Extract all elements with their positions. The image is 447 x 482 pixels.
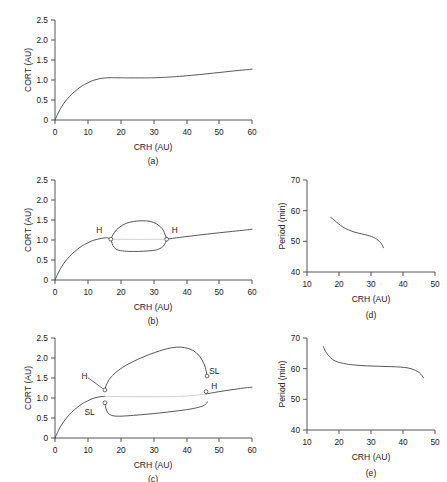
panel-d: 70 60 50 40 10 20 30 40 50 Period (min) … [265, 162, 447, 327]
x-tick-label: 0 [53, 127, 58, 137]
panel-e-axes [303, 338, 435, 434]
panel-e-y-tick-labels: 70 60 50 40 [291, 333, 301, 435]
x-tick-label: 30 [366, 437, 376, 447]
series-stable-branch [105, 402, 207, 416]
hopf-point-label: H [82, 371, 88, 381]
x-tick-label: 10 [302, 279, 312, 289]
x-axis-title: CRH (AU) [134, 142, 173, 152]
bifurcation-figure: 2.5 2.0 1.5 1.0 0.5 0 0 10 20 30 40 50 6… [0, 0, 447, 482]
panel-a-y-tick-labels: 2.5 2.0 1.5 1.0 0.5 0 [36, 15, 48, 125]
y-tick-label: 0.5 [36, 95, 48, 105]
panel-e-x-tick-labels: 10 20 30 40 50 [302, 437, 440, 447]
x-tick-label: 10 [83, 287, 93, 297]
y-tick-label: 2.0 [36, 353, 48, 363]
x-tick-label: 0 [53, 445, 58, 455]
annotation-leader-line [88, 378, 103, 389]
x-tick-label: 60 [247, 445, 257, 455]
x-tick-label: 40 [182, 287, 192, 297]
panel-a: 2.5 2.0 1.5 1.0 0.5 0 0 10 20 30 40 50 6… [0, 2, 280, 167]
x-tick-label: 30 [149, 127, 159, 137]
x-tick-label: 50 [214, 287, 224, 297]
y-tick-label: 50 [291, 394, 301, 404]
panel-e-series [323, 347, 423, 378]
y-tick-label: 0.5 [36, 413, 48, 423]
y-tick-label: 1.0 [36, 75, 48, 85]
panel-c-x-tick-labels: 0 10 20 30 40 50 60 [53, 445, 257, 455]
panel-d-x-tick-labels: 10 20 30 40 50 [302, 279, 440, 289]
x-axis-title: CRH (AU) [134, 460, 173, 470]
y-tick-label: 60 [291, 206, 301, 216]
series-stable-branch [323, 347, 423, 378]
x-tick-label: 40 [398, 279, 408, 289]
y-tick-label: 1.0 [36, 393, 48, 403]
series-stable-branch [331, 217, 384, 247]
x-tick-label: 20 [334, 279, 344, 289]
panel-caption-e: (e) [366, 468, 377, 478]
panel-a-x-tick-labels: 0 10 20 30 40 50 60 [53, 127, 257, 137]
y-tick-label: 60 [291, 364, 301, 374]
panel-b-y-tick-labels: 2.5 2.0 1.5 1.0 0.5 0 [36, 175, 48, 285]
y-tick-label: 2.5 [36, 15, 48, 25]
series-unstable-branch [105, 394, 206, 397]
x-tick-label: 60 [247, 127, 257, 137]
series-stable-branch [111, 239, 167, 251]
y-tick-label: 0 [43, 275, 48, 285]
x-tick-label: 60 [247, 287, 257, 297]
x-tick-label: 40 [182, 445, 192, 455]
panel-b-annotations: HH [96, 225, 178, 241]
series-stable-branch [55, 238, 111, 280]
y-tick-label: 70 [291, 333, 301, 343]
saddle-loop-point-label: SL [84, 407, 95, 417]
y-axis-title: CORT (AU) [23, 366, 33, 410]
x-tick-label: 0 [53, 287, 58, 297]
panel-e: 70 60 50 40 10 20 30 40 50 Period (min) … [265, 320, 447, 482]
series-stable-branch [55, 69, 252, 120]
y-tick-label: 40 [291, 425, 301, 435]
x-tick-label: 50 [430, 279, 440, 289]
x-tick-label: 10 [302, 437, 312, 447]
y-tick-label: 1.5 [36, 373, 48, 383]
y-tick-label: 50 [291, 236, 301, 246]
panel-b-axes [51, 180, 252, 284]
y-tick-label: 2.0 [36, 35, 48, 45]
hopf-point-marker [165, 237, 169, 241]
panel-c: 2.5 2.0 1.5 1.0 0.5 0 0 10 20 30 40 50 6… [0, 320, 280, 482]
y-tick-label: 2.5 [36, 175, 48, 185]
panel-c-svg: 2.5 2.0 1.5 1.0 0.5 0 0 10 20 30 40 50 6… [0, 320, 280, 482]
y-axis-title: Period (min) [277, 360, 287, 407]
x-tick-label: 30 [366, 279, 376, 289]
panel-a-series [55, 69, 252, 120]
hopf-point-label: H [172, 225, 178, 235]
panel-c-series [55, 347, 252, 438]
x-tick-label: 30 [149, 445, 159, 455]
panel-c-annotations: HSLSLH [82, 366, 220, 417]
panel-b-series [55, 221, 252, 280]
hopf-point-label: H [96, 225, 102, 235]
panel-caption-c: (c) [148, 474, 158, 482]
panel-b: 2.5 2.0 1.5 1.0 0.5 0 0 10 20 30 40 50 6… [0, 162, 280, 327]
x-tick-label: 50 [214, 445, 224, 455]
y-tick-label: 1.5 [36, 55, 48, 65]
y-axis-title: CORT (AU) [23, 48, 33, 92]
y-tick-label: 1.5 [36, 215, 48, 225]
hopf-point-marker [109, 237, 113, 241]
panel-e-svg: 70 60 50 40 10 20 30 40 50 Period (min) … [265, 320, 447, 482]
panel-c-y-tick-labels: 2.5 2.0 1.5 1.0 0.5 0 [36, 333, 48, 443]
x-tick-label: 10 [83, 445, 93, 455]
x-tick-label: 40 [398, 437, 408, 447]
x-tick-label: 20 [116, 445, 126, 455]
x-tick-label: 20 [116, 127, 126, 137]
saddle-loop-point-label: SL [209, 366, 220, 376]
y-tick-label: 2.0 [36, 195, 48, 205]
x-tick-label: 50 [214, 127, 224, 137]
y-axis-title: CORT (AU) [23, 208, 33, 252]
series-stable-branch [111, 221, 167, 239]
x-tick-label: 20 [116, 287, 126, 297]
x-axis-title: CRH (AU) [134, 302, 173, 312]
y-tick-label: 2.5 [36, 333, 48, 343]
series-stable-branch [167, 229, 252, 239]
x-axis-title: CRH (AU) [352, 294, 391, 304]
panel-caption-d: (d) [366, 310, 377, 320]
panel-d-svg: 70 60 50 40 10 20 30 40 50 Period (min) … [265, 162, 447, 327]
x-tick-label: 10 [83, 127, 93, 137]
